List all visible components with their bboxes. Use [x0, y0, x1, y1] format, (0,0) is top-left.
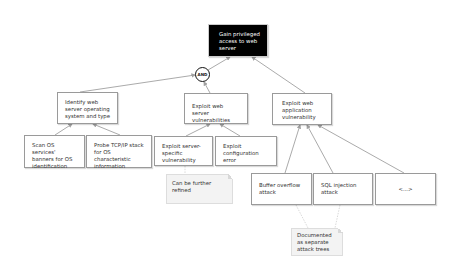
edge-probe-to-identify: [93, 124, 120, 135]
node-buffer-overflow[interactable]: Buffer overflow attack: [251, 173, 312, 205]
node-sql-injection[interactable]: SQL injection attack: [313, 173, 373, 205]
note-label: Can be further refined: [172, 180, 211, 193]
note-link-sql: [335, 205, 340, 228]
edge-exploit-app-to-root: [252, 57, 305, 93]
node-exploit-web-server[interactable]: Exploit web server vulnerabilities: [184, 93, 248, 124]
edge-identify-to-and: [80, 75, 195, 92]
node-label: Scan OS services' banners for OS identif…: [32, 142, 72, 169]
node-label: Exploit web application vulnerability: [282, 100, 316, 120]
note-can-be-refined[interactable]: Can be further refined: [166, 174, 233, 204]
note-fold-corner: [228, 174, 233, 179]
node-label: Exploit server-specific vulnerability: [162, 143, 201, 163]
node-identify-web-server[interactable]: Identify web server operating system and…: [57, 92, 118, 124]
note-label: Documented as separate attack trees: [297, 232, 332, 252]
node-exploit-server-specific[interactable]: Exploit server-specific vulnerability: [154, 136, 213, 166]
node-scan-os-banners[interactable]: Scan OS services' banners for OS identif…: [24, 135, 85, 168]
node-exploit-config-error[interactable]: Exploit configuration error: [215, 136, 277, 166]
node-label: Exploit configuration error: [223, 143, 259, 163]
node-label: Probe TCP/IP stack for OS characteristic…: [94, 142, 144, 169]
node-label: SQL injection attack: [321, 182, 356, 195]
and-gate: AND: [195, 67, 210, 82]
edge-buffer-to-exploit-app: [285, 125, 300, 173]
node-label: <...>: [398, 186, 412, 193]
edge-server-specific-to-exploit-server: [186, 124, 210, 136]
edge-config-to-exploit-server: [220, 124, 240, 136]
edge-exploit-server-to-and: [204, 82, 210, 93]
edge-scan-to-identify: [55, 124, 72, 135]
and-gate-label: AND: [198, 72, 208, 77]
note-link-buffer: [296, 205, 308, 228]
root-goal-label: Gain privileged access to web server: [219, 31, 260, 51]
node-probe-tcpip[interactable]: Probe TCP/IP stack for OS characteristic…: [86, 135, 152, 168]
node-more-attacks[interactable]: <...>: [375, 173, 436, 205]
edge-sql-to-exploit-app: [307, 125, 333, 173]
node-label: Identify web server operating system and…: [65, 99, 110, 119]
node-exploit-web-app[interactable]: Exploit web application vulnerability: [272, 93, 332, 125]
edge-and-to-root: [208, 57, 230, 70]
node-label: Buffer overflow attack: [259, 182, 300, 195]
note-separate-trees[interactable]: Documented as separate attack trees: [291, 228, 343, 256]
root-goal-node[interactable]: Gain privileged access to web server: [208, 24, 268, 57]
edge-more-to-exploit-app: [318, 125, 404, 173]
node-label: Exploit web server vulnerabilities: [192, 103, 230, 123]
note-fold-corner: [338, 228, 343, 233]
